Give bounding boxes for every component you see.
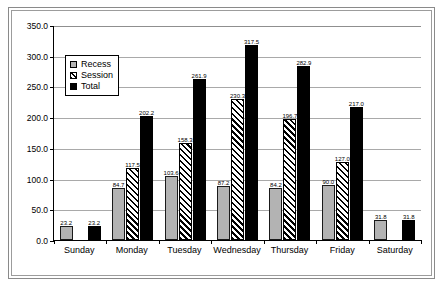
bar-slot: 31.8 [374, 26, 387, 240]
y-axis-tick-label: 150.0 [27, 145, 48, 154]
bar-session[interactable]: 117.5 [126, 168, 139, 240]
bar-recess[interactable]: 84.7 [112, 188, 125, 240]
x-axis-label: Saturday [368, 246, 421, 255]
bar-value-label: 282.9 [296, 60, 311, 66]
bar-group: 87.2230.3317.5 [211, 26, 263, 240]
legend-item-session: Session [70, 70, 113, 81]
x-axis-tick [264, 240, 265, 244]
bar-slot: 158.3 [179, 26, 192, 240]
chart-legend: Recess Session Total [65, 55, 119, 96]
bar-total[interactable]: 31.8 [402, 220, 415, 240]
bar-group-bars: 103.6158.3261.9 [159, 26, 211, 240]
y-axis-tick-label: 50.0 [31, 206, 48, 215]
bar-value-label: 23.2 [88, 220, 100, 226]
legend-swatch-total-icon [70, 83, 77, 90]
bar-group-bars: 31.831.8 [369, 26, 421, 240]
y-axis-tick-label: 250.0 [27, 83, 48, 92]
bar-slot: 84.2 [269, 26, 282, 240]
bar-group: 90.0127.0217.0 [316, 26, 368, 240]
bar-recess[interactable]: 31.8 [374, 220, 387, 240]
bar-value-label: 31.8 [403, 214, 415, 220]
legend-label-session: Session [81, 71, 113, 80]
bar-group-bars: 84.2196.7282.9 [264, 26, 316, 240]
chart-figure: 350.0300.0250.0200.0150.0100.050.00.0 23… [8, 7, 435, 279]
bar-slot: 117.5 [126, 26, 139, 240]
x-axis-tick [54, 240, 55, 244]
bar-slot: 87.2 [217, 26, 230, 240]
legend-label-total: Total [81, 82, 100, 91]
bar-total[interactable]: 23.2 [88, 226, 101, 240]
x-axis-tick [369, 240, 370, 244]
bar-value-label: 127.0 [335, 156, 350, 162]
bar-slot: 90.0 [322, 26, 335, 240]
bar-value-label: 202.2 [139, 110, 154, 116]
bar-value-label: 196.7 [282, 113, 297, 119]
bar-value-label: 158.3 [178, 137, 193, 143]
bar-session[interactable]: 158.3 [179, 143, 192, 240]
x-axis-tick [421, 240, 422, 244]
x-axis-tick [211, 240, 212, 244]
bar-recess[interactable]: 87.2 [217, 186, 230, 240]
bar-total[interactable]: 317.5 [245, 45, 258, 240]
bar-session[interactable]: 127.0 [336, 162, 349, 240]
y-axis-tick-label: 350.0 [27, 22, 48, 31]
x-axis-tick [159, 240, 160, 244]
x-axis-label: Friday [316, 246, 369, 255]
bar-group: 84.2196.7282.9 [264, 26, 316, 240]
x-axis-label: Thursday [263, 246, 316, 255]
bar-value-label: 87.2 [218, 180, 230, 186]
bar-value-label: 23.2 [60, 220, 72, 226]
figure-caption [10, 285, 430, 297]
bar-total[interactable]: 217.0 [350, 107, 363, 240]
x-axis-tick [106, 240, 107, 244]
bar-slot: 202.2 [140, 26, 153, 240]
bar-session[interactable]: 196.7 [283, 119, 296, 240]
bar-slot: 103.6 [165, 26, 178, 240]
bar-slot: 196.7 [283, 26, 296, 240]
bar-value-label: 217.0 [349, 101, 364, 107]
x-axis-tick [316, 240, 317, 244]
legend-item-recess: Recess [70, 59, 113, 70]
bar-slot: 261.9 [193, 26, 206, 240]
bar-slot: 317.5 [245, 26, 258, 240]
bar-value-label: 84.2 [270, 182, 282, 188]
bar-total[interactable]: 261.9 [193, 79, 206, 240]
legend-item-total: Total [70, 81, 113, 92]
legend-swatch-session-icon [70, 72, 77, 79]
legend-swatch-recess-icon [70, 61, 77, 68]
bar-total[interactable]: 202.2 [140, 116, 153, 240]
bar-total[interactable]: 282.9 [297, 66, 310, 240]
x-axis-label: Wednesday [211, 246, 264, 255]
bar-recess[interactable]: 84.2 [269, 188, 282, 240]
bar-session[interactable]: 230.3 [231, 99, 244, 240]
x-axis-label: Tuesday [158, 246, 211, 255]
bar-group-bars: 90.0127.0217.0 [316, 26, 368, 240]
bar-value-label: 117.5 [125, 162, 140, 168]
bar-slot: 217.0 [350, 26, 363, 240]
bar-recess[interactable]: 90.0 [322, 185, 335, 240]
x-axis-label: Monday [106, 246, 159, 255]
y-axis-tick-label: 200.0 [27, 114, 48, 123]
legend-label-recess: Recess [81, 60, 111, 69]
y-axis-tick-label: 100.0 [27, 175, 48, 184]
bar-recess[interactable]: 103.6 [165, 176, 178, 240]
bar-value-label: 31.8 [375, 214, 387, 220]
bar-slot [388, 26, 401, 240]
bar-group: 103.6158.3261.9 [159, 26, 211, 240]
bar-value-label: 261.9 [192, 73, 207, 79]
x-axis-label: Sunday [53, 246, 106, 255]
bar-value-label: 84.7 [113, 182, 125, 188]
x-axis-labels: SundayMondayTuesdayWednesdayThursdayFrid… [53, 246, 421, 255]
bar-recess[interactable]: 23.2 [60, 226, 73, 240]
bar-group: 31.831.8 [369, 26, 421, 240]
y-axis-tick-label: 300.0 [27, 52, 48, 61]
bar-group-bars: 87.2230.3317.5 [211, 26, 263, 240]
bar-value-label: 317.5 [244, 39, 259, 45]
bar-value-label: 230.3 [230, 93, 245, 99]
bar-slot: 282.9 [297, 26, 310, 240]
bar-slot: 31.8 [402, 26, 415, 240]
bar-value-label: 90.0 [322, 179, 334, 185]
bar-slot: 230.3 [231, 26, 244, 240]
bar-value-label: 103.6 [164, 170, 179, 176]
y-axis-tick-label: 0.0 [36, 237, 48, 246]
